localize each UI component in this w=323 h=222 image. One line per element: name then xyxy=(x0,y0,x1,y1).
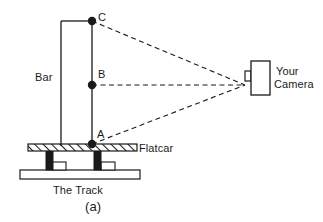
point-marker-a xyxy=(88,140,96,148)
figure-caption: (a) xyxy=(85,200,101,215)
track-group xyxy=(20,170,140,179)
wheel-right xyxy=(101,162,115,170)
point-label-b: B xyxy=(98,68,105,80)
flatcar-group xyxy=(28,144,137,151)
axle-support-right xyxy=(94,150,101,170)
bar-label: Bar xyxy=(35,71,52,83)
axle-support-left xyxy=(46,150,53,170)
point-marker-c xyxy=(88,17,96,25)
point-marker-b xyxy=(88,81,96,89)
truck-assembly-left xyxy=(46,150,66,170)
flatcar-label: Flatcar xyxy=(139,142,173,154)
point-label-c: C xyxy=(98,11,106,23)
camera-group xyxy=(245,61,270,95)
point-label-a: A xyxy=(97,128,104,140)
track-rail xyxy=(20,170,140,179)
truck-assembly-right xyxy=(94,150,115,170)
camera-body xyxy=(251,61,270,95)
wheel-left xyxy=(52,162,66,170)
track-label: The Track xyxy=(53,184,103,196)
sight-lines-group xyxy=(92,21,245,144)
camera-lens xyxy=(245,71,251,81)
sight-line-c xyxy=(92,21,245,85)
camera-label-line2: Camera xyxy=(274,78,314,90)
sight-line-a xyxy=(92,85,245,144)
flatcar-deck xyxy=(28,144,137,151)
figure-container: Bar C B A Flatcar The Track Your Camera … xyxy=(0,0,323,222)
diagram-canvas xyxy=(0,0,323,222)
camera-label-line1: Your xyxy=(276,65,299,77)
bar-group xyxy=(61,21,92,146)
